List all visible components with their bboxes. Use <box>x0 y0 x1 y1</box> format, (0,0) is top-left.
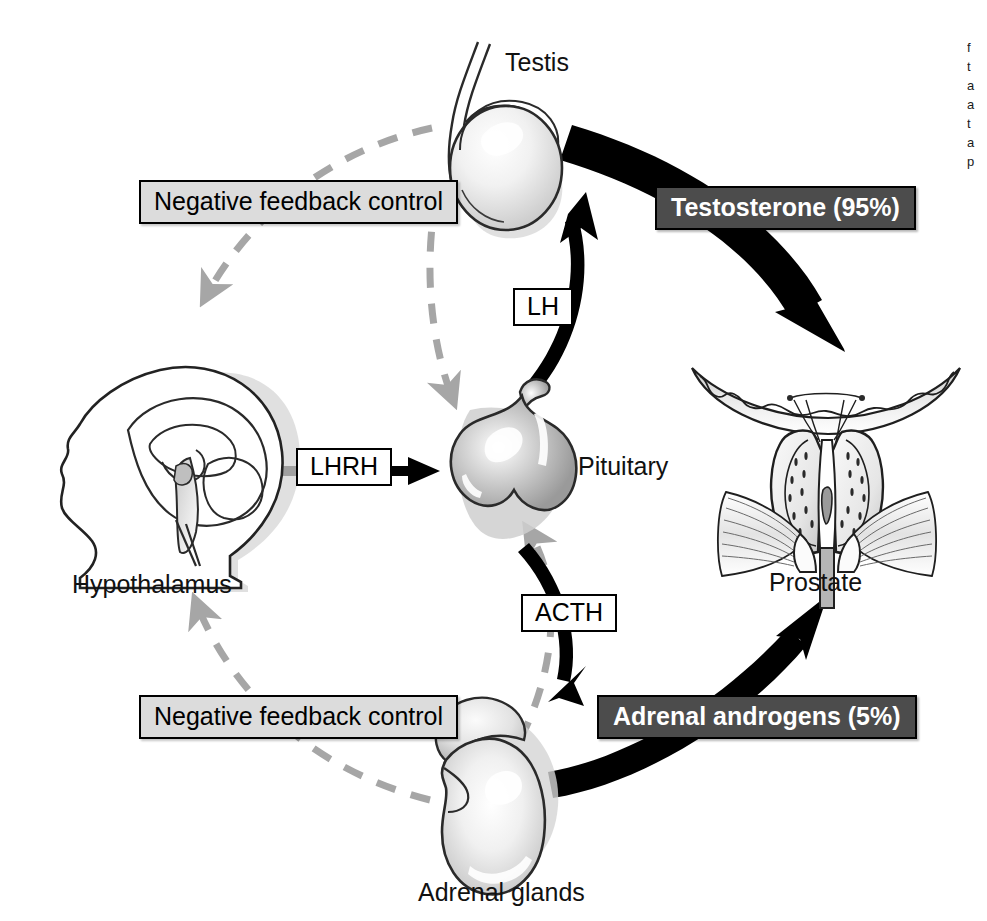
bladder-outer <box>692 368 960 434</box>
organ-label-pituitary: Pituitary <box>578 452 668 481</box>
organ-label-prostate: Prostate <box>769 568 862 597</box>
organ-label-testis: Testis <box>505 48 569 77</box>
margin-caption-line-5: a <box>967 133 987 152</box>
output-label-adrenal-androgens: Adrenal androgens (5%) <box>597 695 917 739</box>
margin-caption-cropped: f t a a t a p <box>967 38 987 171</box>
bladder-trigone <box>790 394 862 399</box>
organ-label-adrenal-glands: Adrenal glands <box>418 878 585 907</box>
feedback-label-lower: Negative feedback control <box>139 695 458 739</box>
hormone-tag-lh: LH <box>513 288 573 326</box>
pituitary-illustration <box>451 379 576 539</box>
output-label-testosterone: Testosterone (95%) <box>655 186 916 230</box>
figure-canvas: Testis Hypothalamus Pituitary Adrenal gl… <box>0 0 987 921</box>
margin-caption-line-6: p <box>967 152 987 171</box>
organ-label-hypothalamus: Hypothalamus <box>72 570 232 599</box>
hypothalamus-node <box>174 464 192 485</box>
feedback-path-testis-to-pituitary <box>430 196 453 400</box>
margin-caption-line-4: t <box>967 114 987 133</box>
diagram-illustration <box>0 0 987 921</box>
hormone-tag-acth: ACTH <box>521 594 617 632</box>
hypothalamus-head-illustration <box>61 367 300 592</box>
ureter-orifice-right <box>859 395 865 401</box>
margin-caption-line-2: a <box>967 76 987 95</box>
ureter-orifice-left <box>787 395 793 401</box>
margin-caption-line-0: f <box>967 38 987 57</box>
margin-caption-line-3: a <box>967 95 987 114</box>
hormone-tag-lhrh: LHRH <box>296 448 392 486</box>
adrenal-body <box>442 739 545 895</box>
feedback-label-upper: Negative feedback control <box>139 180 458 224</box>
margin-caption-line-1: t <box>967 57 987 76</box>
